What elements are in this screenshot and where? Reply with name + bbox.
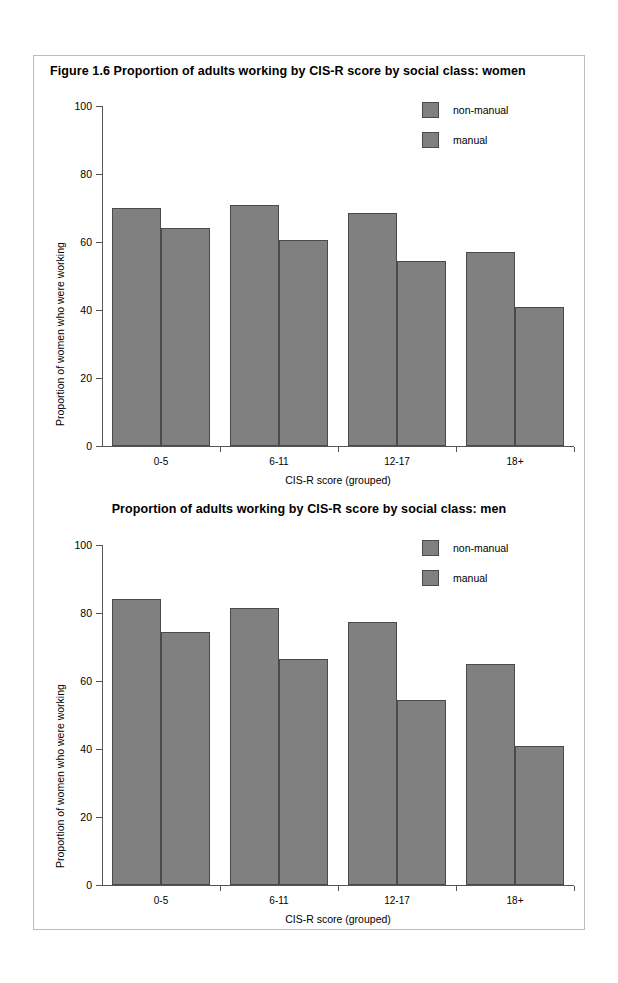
- x-axis-title: CIS-R score (grouped): [102, 474, 574, 486]
- y-axis-line: [102, 545, 103, 885]
- y-axis-tick-label: 0: [36, 880, 92, 891]
- chart-women: Figure 1.6 Proportion of adults working …: [34, 56, 584, 488]
- y-axis-tick-label: 80: [36, 608, 92, 619]
- figure-page: Figure 1.6 Proportion of adults working …: [0, 0, 618, 983]
- legend-swatch-manual: [422, 570, 439, 586]
- x-axis-tick: [574, 447, 575, 452]
- x-axis-category-label: 18+: [480, 895, 550, 906]
- legend-item-non-manual: non-manual: [422, 540, 582, 556]
- chart-women-legend: non-manual manual: [422, 102, 582, 162]
- y-axis-title: Proportion of women who were working: [54, 242, 66, 426]
- y-axis-tick: [96, 378, 102, 379]
- y-axis-tick: [96, 242, 102, 243]
- legend-label-manual: manual: [453, 572, 487, 584]
- x-axis-title: CIS-R score (grouped): [102, 913, 574, 925]
- x-axis-tick: [456, 886, 457, 891]
- bar-non-manual-6-11: [230, 608, 279, 885]
- x-axis-tick: [456, 447, 457, 452]
- bar-manual-6-11: [279, 659, 328, 885]
- legend-item-manual: manual: [422, 132, 582, 148]
- x-axis-category-label: 6-11: [244, 895, 314, 906]
- y-axis-tick-label: 100: [36, 540, 92, 551]
- y-axis-line: [102, 106, 103, 446]
- bar-manual-0-5: [161, 632, 210, 885]
- y-axis-title: Proportion of women who were working: [54, 684, 66, 868]
- y-axis-tick: [96, 446, 102, 447]
- legend-label-non-manual: non-manual: [453, 104, 508, 116]
- y-axis-tick-label: 100: [36, 101, 92, 112]
- x-axis-category-label: 12-17: [362, 456, 432, 467]
- bar-non-manual-0-5: [112, 208, 161, 446]
- y-axis-tick: [96, 613, 102, 614]
- x-axis-category-label: 6-11: [244, 456, 314, 467]
- bar-manual-12-17: [397, 261, 446, 446]
- y-axis-tick: [96, 174, 102, 175]
- legend-swatch-non-manual: [422, 540, 439, 556]
- y-axis-tick-label: 0: [36, 441, 92, 452]
- x-axis-tick: [574, 886, 575, 891]
- legend-label-non-manual: non-manual: [453, 542, 508, 554]
- bar-manual-0-5: [161, 228, 210, 446]
- legend-item-manual: manual: [422, 570, 582, 586]
- legend-item-non-manual: non-manual: [422, 102, 582, 118]
- y-axis-tick-label: 80: [36, 169, 92, 180]
- y-axis-tick: [96, 817, 102, 818]
- x-axis-category-label: 12-17: [362, 895, 432, 906]
- bar-non-manual-12-17: [348, 213, 397, 446]
- bar-non-manual-6-11: [230, 205, 279, 446]
- x-axis-tick: [220, 447, 221, 452]
- x-axis-category-label: 0-5: [126, 456, 196, 467]
- bar-manual-6-11: [279, 240, 328, 446]
- bar-manual-18+: [515, 746, 564, 885]
- x-axis-tick: [220, 886, 221, 891]
- y-axis-tick: [96, 106, 102, 107]
- y-axis-tick: [96, 310, 102, 311]
- legend-swatch-non-manual: [422, 102, 439, 118]
- chart-men: Proportion of adults working by CIS-R sc…: [34, 490, 584, 928]
- bar-non-manual-18+: [466, 252, 515, 446]
- chart-men-legend: non-manual manual: [422, 540, 582, 600]
- bar-non-manual-18+: [466, 664, 515, 885]
- x-axis-category-label: 18+: [480, 456, 550, 467]
- bar-non-manual-12-17: [348, 622, 397, 886]
- bar-non-manual-0-5: [112, 599, 161, 885]
- legend-label-manual: manual: [453, 134, 487, 146]
- y-axis-tick: [96, 749, 102, 750]
- x-axis-tick: [338, 447, 339, 452]
- bar-manual-18+: [515, 307, 564, 446]
- x-axis-category-label: 0-5: [126, 895, 196, 906]
- y-axis-tick: [96, 681, 102, 682]
- x-axis-tick: [338, 886, 339, 891]
- y-axis-tick: [96, 885, 102, 886]
- bar-manual-12-17: [397, 700, 446, 885]
- legend-swatch-manual: [422, 132, 439, 148]
- y-axis-tick: [96, 545, 102, 546]
